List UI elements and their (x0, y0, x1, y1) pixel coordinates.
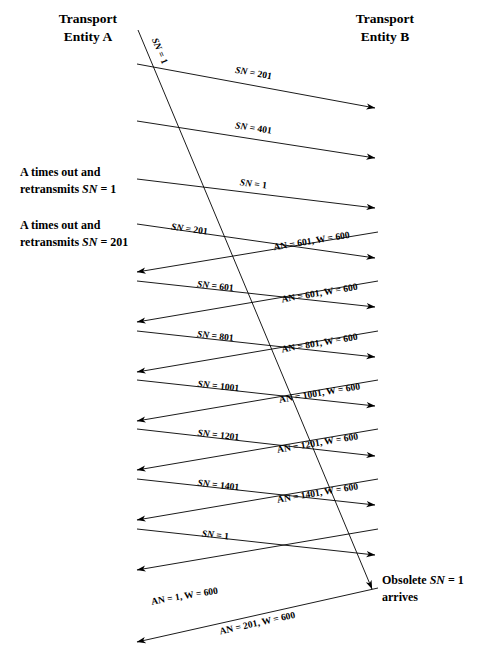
note-obsolete-sn-1: Obsolete SN = 1 arrives (382, 573, 464, 604)
entity-b-line1: Transport (356, 11, 415, 26)
label-sn-401: SN = 401 (234, 119, 272, 136)
label-sn-601: SN = 601 (196, 278, 234, 293)
timing-diagram: Transport Entity A Transport Entity B SN… (0, 0, 483, 664)
svg-text:SN = 801: SN = 801 (196, 328, 234, 343)
entity-a-line2: Entity A (64, 29, 113, 44)
svg-text:SN = 1: SN = 1 (239, 176, 268, 190)
entity-a-line1: Transport (59, 11, 118, 26)
label-sn-1401: SN = 1401 (197, 477, 240, 493)
label-sn-1-diagonal: SN = 1 (150, 36, 171, 66)
label-sn-801: SN = 801 (196, 328, 234, 343)
label-an-1201: AN = 1201, W = 600 (276, 430, 359, 455)
svg-text:SN = 601: SN = 601 (196, 278, 234, 293)
flow-sn-1-final (137, 529, 375, 555)
label-sn-1201: SN = 1201 (197, 427, 240, 443)
svg-text:SN = 201: SN = 201 (170, 220, 208, 236)
svg-text:SN = 1: SN = 1 (201, 528, 230, 542)
label-an-1: AN = 1, W = 600 (150, 584, 219, 606)
label-an-1401: AN = 1401, W = 600 (276, 480, 359, 505)
label-sn-1001: SN = 1001 (197, 378, 240, 394)
svg-text:SN = 1: SN = 1 (150, 36, 171, 66)
svg-text:AN = 201, W = 600: AN = 201, W = 600 (218, 609, 296, 637)
label-sn-1-retransmit: SN = 1 (239, 176, 268, 190)
entity-b-heading: Transport Entity B (356, 11, 415, 44)
svg-text:SN = 401: SN = 401 (234, 119, 272, 136)
entity-b-line2: Entity B (361, 29, 409, 44)
svg-text:SN = 201: SN = 201 (234, 64, 273, 82)
note-obsolete-line2: arrives (382, 590, 418, 604)
note-timeout-201-line2: retransmits SN = 201 (20, 235, 128, 249)
label-sn-201-retransmit: SN = 201 (170, 220, 208, 236)
entity-a-heading: Transport Entity A (59, 11, 118, 44)
label-sn-201: SN = 201 (234, 64, 273, 82)
label-sn-1-diag-rest: = 1 (155, 47, 171, 65)
note-timeout-201-line1: A times out and (20, 218, 101, 232)
label-an-1001: AN = 1001, W = 600 (278, 380, 361, 405)
svg-text:AN = 1, W = 600: AN = 1, W = 600 (150, 584, 219, 606)
note-timeout-sn-1: A times out and retransmits SN = 1 (20, 165, 116, 196)
svg-text:SN = 1001: SN = 1001 (197, 378, 240, 394)
svg-text:AN = 1201, W = 600: AN = 1201, W = 600 (276, 430, 359, 455)
svg-text:SN = 1201: SN = 1201 (197, 427, 240, 443)
flow-sn-1-lost (138, 30, 372, 589)
svg-text:SN = 1401: SN = 1401 (197, 477, 240, 493)
diagram-canvas: Transport Entity A Transport Entity B SN… (0, 0, 483, 664)
note-obsolete-line1: Obsolete SN = 1 (382, 573, 464, 587)
label-an-201: AN = 201, W = 600 (218, 609, 296, 637)
note-timeout-1-line1: A times out and (20, 165, 101, 179)
note-timeout-1-line2: retransmits SN = 1 (20, 182, 116, 196)
svg-text:AN = 1401, W = 600: AN = 1401, W = 600 (276, 480, 359, 505)
flow-an-1 (137, 529, 378, 570)
label-sn-1-final: SN = 1 (201, 528, 230, 542)
svg-text:AN = 1001, W = 600: AN = 1001, W = 600 (278, 380, 361, 405)
note-timeout-sn-201: A times out and retransmits SN = 201 (20, 218, 128, 249)
